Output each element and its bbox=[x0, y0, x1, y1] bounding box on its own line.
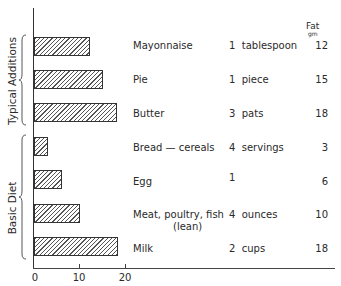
food-label-butter: Butter bbox=[133, 108, 164, 120]
fat-value-milk: 18 bbox=[315, 243, 328, 254]
food-label-meat-main: Meat, poultry, fish bbox=[133, 209, 224, 220]
bar-butter bbox=[34, 103, 117, 122]
brace-basic-diet bbox=[18, 134, 28, 260]
x-tick-label-0: 0 bbox=[32, 272, 38, 283]
food-label-milk: Milk bbox=[133, 243, 153, 255]
amount-butter: 3 pats bbox=[229, 108, 263, 119]
fat-value-meat: 10 bbox=[315, 209, 328, 220]
fat-header-unit: gm bbox=[306, 31, 319, 37]
food-label-pie: Pie bbox=[133, 74, 148, 86]
unit: cups bbox=[242, 243, 265, 254]
bar-milk bbox=[34, 237, 118, 256]
group-label-typical-additions: Typical Additions bbox=[6, 37, 18, 125]
qty: 1 bbox=[229, 40, 235, 51]
amount-pie: 1 piece bbox=[229, 74, 269, 85]
amount-bread-cereals: 4 servings bbox=[229, 142, 284, 153]
fat-column-header: Fat gm bbox=[306, 22, 319, 37]
fat-value-bread-cereals: 3 bbox=[322, 142, 328, 153]
bar-meat bbox=[34, 204, 80, 223]
x-tick-label-10: 10 bbox=[73, 272, 86, 283]
food-label-meat: Meat, poultry, fish (lean) bbox=[133, 209, 224, 233]
x-tick-20 bbox=[125, 264, 126, 268]
unit: servings bbox=[242, 142, 284, 153]
qty: 1 bbox=[229, 172, 235, 183]
fat-value-pie: 15 bbox=[315, 74, 328, 85]
amount-mayonnaise: 1 tablespoon bbox=[229, 40, 297, 51]
food-label-mayonnaise: Mayonnaise bbox=[133, 40, 193, 52]
food-label-bread-cereals: Bread — cereals bbox=[133, 142, 215, 154]
qty: 3 bbox=[229, 108, 235, 119]
fat-value-mayonnaise: 12 bbox=[315, 40, 328, 51]
x-tick-label-20: 20 bbox=[119, 272, 132, 283]
food-label-meat-sub: (lean) bbox=[133, 221, 224, 233]
amount-milk: 2 cups bbox=[229, 243, 265, 254]
qty: 4 bbox=[229, 209, 235, 220]
qty: 4 bbox=[229, 142, 235, 153]
bar-bread-cereals bbox=[34, 137, 48, 156]
amount-egg: 1 bbox=[229, 172, 235, 183]
food-label-egg: Egg bbox=[133, 176, 152, 188]
unit: tablespoon bbox=[242, 40, 297, 51]
qty: 1 bbox=[229, 74, 235, 85]
unit: ounces bbox=[242, 209, 278, 220]
x-tick-10 bbox=[79, 264, 80, 268]
bar-pie bbox=[34, 70, 103, 89]
bar-egg bbox=[34, 170, 62, 189]
x-axis-line bbox=[33, 268, 335, 269]
unit: pats bbox=[242, 108, 264, 119]
qty: 2 bbox=[229, 243, 235, 254]
group-label-basic-diet: Basic Diet bbox=[6, 182, 18, 235]
fat-value-butter: 18 bbox=[315, 108, 328, 119]
brace-typical-additions bbox=[18, 34, 28, 126]
fat-value-egg: 6 bbox=[322, 176, 328, 187]
unit: piece bbox=[242, 74, 269, 85]
bar-mayonnaise bbox=[34, 37, 90, 56]
amount-meat: 4 ounces bbox=[229, 209, 277, 220]
